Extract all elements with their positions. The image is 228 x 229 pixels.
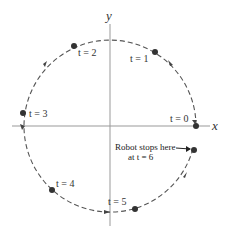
- annotation-line2: at t = 6: [128, 152, 154, 162]
- label-t1: t = 1: [130, 53, 148, 64]
- diagram-canvas: x y t = 0 t = 1 t = 2 t = 3 t = 4 t = 5 …: [0, 0, 228, 229]
- label-t5: t = 5: [108, 196, 126, 207]
- label-t4: t = 4: [56, 178, 74, 189]
- point-t5: [132, 206, 138, 212]
- point-t6: [191, 147, 197, 153]
- annotation-arrowhead-icon: [186, 146, 191, 152]
- point-t0: [193, 123, 199, 129]
- point-t1: [152, 49, 158, 55]
- direction-arrow-icons: [20, 60, 197, 214]
- label-t2: t = 2: [78, 47, 96, 58]
- point-t2: [71, 43, 77, 49]
- point-t3: [20, 110, 26, 116]
- label-t0: t = 0: [170, 113, 188, 124]
- point-t4: [49, 187, 55, 193]
- label-t3: t = 3: [29, 108, 47, 119]
- x-axis-label: x: [211, 118, 218, 133]
- annotation-line1: Robot stops here: [115, 142, 176, 152]
- y-axis-label: y: [104, 8, 112, 23]
